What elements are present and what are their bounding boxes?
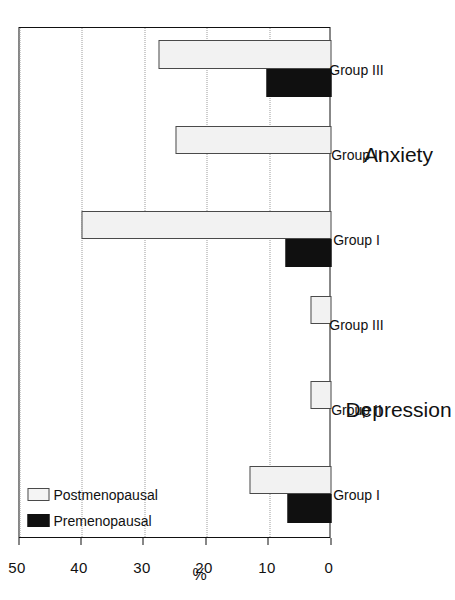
- category-label-2: Group III: [322, 317, 390, 333]
- legend-swatch-postmenopausal: [27, 488, 49, 501]
- y-tick-label: 0: [312, 559, 346, 576]
- legend-label-0: Premenopausal: [53, 513, 151, 529]
- category-label-3: Group I: [322, 232, 390, 248]
- bar-post-3: [81, 211, 331, 239]
- y-tick: [18, 538, 19, 545]
- bar-post-0: [249, 466, 331, 494]
- group-title-0: Depression: [333, 398, 455, 422]
- bar-pre-5: [266, 69, 331, 97]
- legend-entry-1: Postmenopausal: [27, 477, 147, 501]
- legend: PremenopausalPostmenopausal: [27, 357, 147, 527]
- category-label-0: Group I: [322, 487, 390, 503]
- bar-post-5: [158, 41, 331, 69]
- y-tick-label: 50: [0, 559, 34, 576]
- plot-area: PremenopausalPostmenopausal: [18, 27, 330, 538]
- y-axis-title: %: [192, 566, 206, 584]
- gridline: [206, 28, 207, 537]
- legend-entry-0: Premenopausal: [27, 503, 147, 527]
- y-tick: [80, 538, 81, 545]
- legend-swatch-premenopausal: [27, 514, 49, 527]
- y-tick: [142, 538, 143, 545]
- y-tick-label: 30: [124, 559, 158, 576]
- y-tick-label: 10: [249, 559, 283, 576]
- gridline: [19, 28, 20, 537]
- gridline: [269, 28, 270, 537]
- category-label-5: Group III: [322, 62, 390, 78]
- y-tick: [267, 538, 268, 545]
- group-title-1: Anxiety: [333, 143, 455, 167]
- legend-label-1: Postmenopausal: [53, 487, 157, 503]
- y-tick: [330, 538, 331, 545]
- y-tick: [205, 538, 206, 545]
- bar-post-4: [175, 126, 331, 154]
- y-tick-label: 40: [62, 559, 96, 576]
